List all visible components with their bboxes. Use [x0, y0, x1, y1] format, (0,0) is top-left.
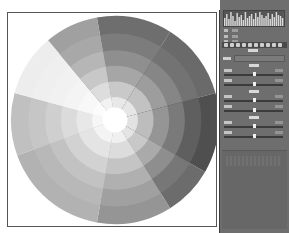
adjustment-group [223, 116, 285, 141]
histogram-bar [226, 14, 227, 27]
histogram-bar [269, 19, 270, 27]
slider-row [223, 131, 285, 141]
preset-dropdown[interactable] [234, 55, 285, 62]
group-title [249, 64, 259, 67]
histogram-bar [267, 13, 268, 27]
histogram-bar [255, 13, 256, 27]
group-title [249, 90, 259, 93]
tool-7-icon[interactable] [260, 43, 264, 47]
slider-thumb[interactable] [253, 108, 256, 112]
info-value [232, 35, 238, 38]
slider-row [223, 105, 285, 115]
histogram-bar [259, 12, 260, 27]
wheel-center [103, 108, 128, 133]
slider-thumb[interactable] [253, 82, 256, 86]
group-title [249, 116, 259, 119]
preset-title [248, 49, 258, 52]
tool-5-icon[interactable] [248, 43, 252, 47]
adjustment-toolbar [222, 42, 287, 48]
histogram-bar [230, 12, 231, 27]
histogram-bar [282, 18, 283, 27]
histogram-bar [236, 13, 237, 27]
slider-row [223, 69, 285, 79]
tool-1-icon[interactable] [224, 43, 228, 47]
tool-3-icon[interactable] [236, 43, 240, 47]
lower-pane [222, 150, 287, 229]
slider-row [223, 79, 285, 89]
slider-thumb[interactable] [253, 98, 256, 102]
slider-label [224, 131, 232, 134]
slider-value-field[interactable] [275, 121, 283, 124]
histogram-bar [263, 18, 264, 27]
adjustment-group [223, 64, 285, 89]
histogram-bar [234, 21, 235, 27]
slider-value-field[interactable] [275, 131, 283, 134]
histogram-graph [224, 11, 285, 27]
histogram-bar [247, 18, 248, 27]
histogram-bar [278, 15, 279, 27]
preset-label [223, 57, 231, 60]
histogram-bar [261, 15, 262, 27]
slider-label [224, 121, 232, 124]
tool-4-icon[interactable] [242, 43, 246, 47]
histogram-bar [253, 19, 254, 27]
info-key [224, 29, 228, 32]
slider-thumb[interactable] [253, 134, 256, 138]
slider-value-field[interactable] [275, 105, 283, 108]
slider-thumb[interactable] [253, 72, 256, 76]
histogram-bar [243, 20, 244, 27]
right-panel [220, 0, 289, 233]
histogram-bar [280, 16, 281, 27]
histogram-bar [276, 12, 277, 27]
histogram-bar [228, 19, 229, 27]
canvas-document[interactable] [7, 12, 217, 227]
info-row [224, 29, 284, 33]
histogram-bar [249, 16, 250, 27]
histogram-bar [257, 17, 258, 27]
slider-label [224, 69, 232, 72]
histogram-bar [284, 13, 285, 27]
slider-row [223, 121, 285, 131]
histogram-bar [245, 12, 246, 27]
histogram-bar [251, 14, 252, 27]
slider-label [224, 95, 232, 98]
slider-label [224, 105, 232, 108]
slider-value-field[interactable] [275, 79, 283, 82]
tool-8-icon[interactable] [266, 43, 270, 47]
color-wheel-image [8, 13, 216, 225]
histogram-bar [224, 18, 225, 27]
tool-9-icon[interactable] [272, 43, 276, 47]
histogram-bar [274, 17, 275, 27]
info-value [232, 29, 238, 32]
slider-label [224, 79, 232, 82]
slider-row [223, 95, 285, 105]
tool-2-icon[interactable] [230, 43, 234, 47]
histogram-bar [238, 17, 239, 27]
info-key [224, 35, 228, 38]
slider-thumb[interactable] [253, 124, 256, 128]
tool-10-icon[interactable] [278, 43, 282, 47]
tool-6-icon[interactable] [254, 43, 258, 47]
histogram-bar [241, 15, 242, 27]
histogram-bar [265, 16, 266, 27]
histogram-bar [272, 14, 273, 27]
slider-value-field[interactable] [275, 95, 283, 98]
slider-value-field[interactable] [275, 69, 283, 72]
histogram-bar [232, 16, 233, 27]
info-row [224, 35, 284, 39]
lower-pane-content [226, 156, 282, 166]
adjustment-group [223, 90, 285, 115]
preset-row [223, 55, 285, 61]
histogram-panel [223, 10, 285, 27]
